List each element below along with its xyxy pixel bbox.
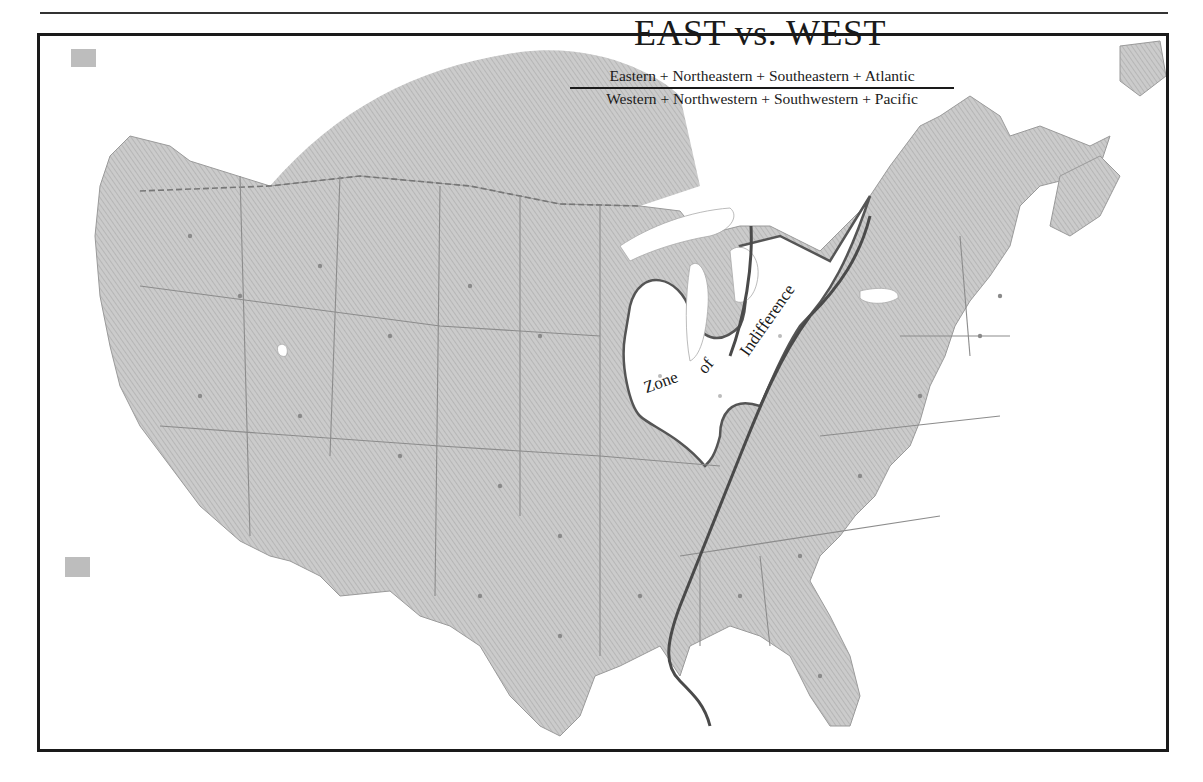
hawaii-inset-bottom	[65, 557, 90, 577]
map-frame	[37, 33, 1169, 752]
map-title: EAST vs. WEST	[560, 12, 960, 54]
hawaii-inset-top	[71, 49, 96, 67]
fraction-denominator: Western + Northwestern + Southwestern + …	[566, 89, 958, 108]
east-west-fraction: Eastern + Northeastern + Southeastern + …	[566, 67, 958, 108]
newfoundland	[1120, 41, 1166, 96]
us-map	[40, 36, 1166, 749]
lake-ontario	[860, 288, 898, 303]
fraction-numerator: Eastern + Northeastern + Southeastern + …	[566, 67, 958, 87]
